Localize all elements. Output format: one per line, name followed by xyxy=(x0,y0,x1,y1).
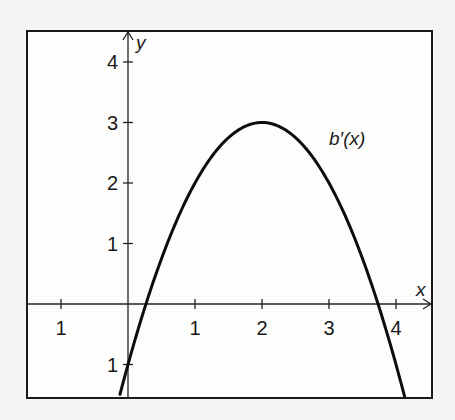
y-tick-label: 1 xyxy=(107,354,118,376)
y-tick-label: 2 xyxy=(107,172,118,194)
y-tick-label: 3 xyxy=(107,112,118,134)
x-tick-label: 1 xyxy=(189,317,200,339)
y-tick-label: 1 xyxy=(107,233,118,255)
x-tick-label: 2 xyxy=(256,317,267,339)
x-axis-label: x xyxy=(415,279,427,300)
series-label-b-prime: b′(x) xyxy=(329,128,365,149)
x-tick-label: 4 xyxy=(390,317,401,339)
chart: x y 11234 43211 b′(x) xyxy=(0,0,455,420)
y-tick-label: 4 xyxy=(107,51,118,73)
y-axis-label: y xyxy=(134,32,147,53)
x-tick-label: 1 xyxy=(55,317,66,339)
plot-frame xyxy=(27,31,432,398)
x-tick-label: 3 xyxy=(323,317,334,339)
